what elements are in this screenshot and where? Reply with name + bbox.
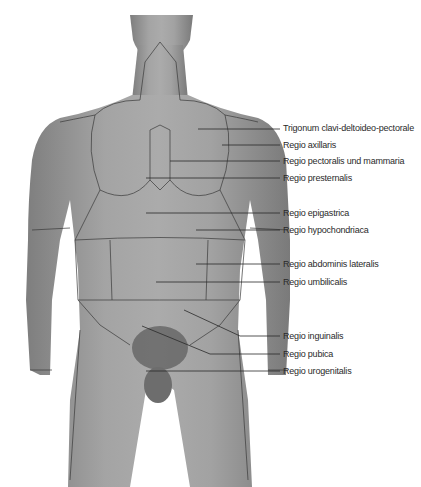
label-regio-urogenitalis: Regio urogenitalis <box>283 366 351 377</box>
label-regio-abdominis-lateralis: Regio abdominis lateralis <box>283 259 379 270</box>
label-regio-inguinalis: Regio inguinalis <box>283 331 343 342</box>
body-illustration <box>0 0 421 487</box>
label-trigonum-clavi-deltoideo-pectorale: Trigonum clavi-deltoideo-pectorale <box>283 123 414 134</box>
label-regio-pectoralis: Regio pectoralis und mammaria <box>283 156 404 167</box>
label-regio-hypochondriaca: Regio hypochondriaca <box>283 225 369 236</box>
label-regio-umbilicalis: Regio umbilicalis <box>283 277 347 288</box>
label-regio-presternalis: Regio presternalis <box>283 173 352 184</box>
label-regio-axillaris: Regio axillaris <box>283 140 336 151</box>
label-regio-epigastrica: Regio epigastrica <box>283 208 349 219</box>
label-regio-pubica: Regio pubica <box>283 349 333 360</box>
anatomy-figure: Trigonum clavi-deltoideo-pectorale Regio… <box>0 0 421 487</box>
